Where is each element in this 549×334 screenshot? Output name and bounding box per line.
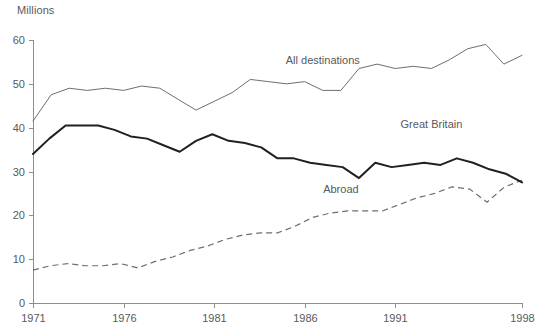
- x-tick-label: 1986: [293, 312, 317, 324]
- series-line-abroad: [33, 180, 522, 270]
- series-label-group: All destinationsGreat BritainAbroad: [286, 54, 463, 195]
- y-tick-label: 0: [19, 297, 25, 309]
- y-axis: 0102030405060: [13, 34, 34, 309]
- series-group: [33, 44, 522, 270]
- y-tick-group: 0102030405060: [13, 34, 33, 309]
- y-tick-label: 50: [13, 78, 25, 90]
- y-tick-label: 20: [13, 209, 25, 221]
- x-tick-group: 197119761981198619911998: [21, 303, 534, 324]
- series-line-all-destinations: [33, 44, 522, 121]
- x-tick-label: 1976: [112, 312, 136, 324]
- y-tick-label: 30: [13, 166, 25, 178]
- series-annotation-great-britain: Great Britain: [401, 118, 463, 130]
- chart-container: Millions 0102030405060 19711976198119861…: [0, 0, 549, 334]
- x-tick-label: 1991: [383, 312, 407, 324]
- x-tick-label: 1971: [21, 312, 45, 324]
- series-annotation-abroad: Abroad: [323, 183, 358, 195]
- y-tick-label: 60: [13, 34, 25, 46]
- series-line-great-britain: [33, 125, 522, 182]
- line-chart-svg: 0102030405060 197119761981198619911998 A…: [0, 0, 549, 334]
- x-tick-label: 1981: [202, 312, 226, 324]
- y-tick-label: 10: [13, 253, 25, 265]
- y-tick-label: 40: [13, 122, 25, 134]
- series-annotation-all-destinations: All destinations: [286, 54, 360, 66]
- x-tick-label: 1998: [510, 312, 534, 324]
- x-axis: 197119761981198619911998: [21, 303, 534, 324]
